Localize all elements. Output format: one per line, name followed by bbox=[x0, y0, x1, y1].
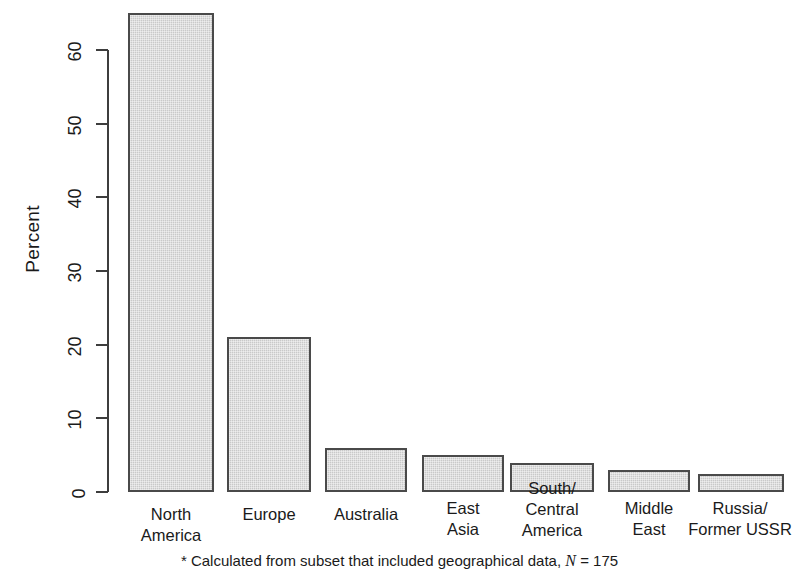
chart-footnote: * Calculated from subset that included g… bbox=[0, 552, 799, 570]
y-tick-label-50: 50 bbox=[65, 109, 86, 143]
bar-east-asia bbox=[422, 455, 504, 492]
bar-chart: Percent 60 50 40 30 20 10 0 North Americ… bbox=[0, 0, 799, 579]
x-label-north-america: North America bbox=[121, 504, 221, 546]
y-tick-label-10: 10 bbox=[65, 403, 86, 437]
y-axis-title: Percent bbox=[22, 189, 44, 289]
bar-australia bbox=[325, 448, 407, 492]
footnote-text: * Calculated from subset that included g… bbox=[181, 552, 565, 569]
x-label-east-asia: East Asia bbox=[413, 498, 513, 540]
y-tick-label-0: 0 bbox=[69, 477, 90, 511]
x-label-europe: Europe bbox=[219, 504, 319, 525]
bar-middle-east bbox=[608, 470, 690, 492]
x-label-russia-former-ussr: Russia/ Former USSR bbox=[681, 498, 799, 540]
bar-russia-former-ussr bbox=[698, 474, 784, 492]
y-tick-label-40: 40 bbox=[65, 182, 86, 216]
y-tick-label-20: 20 bbox=[65, 330, 86, 364]
bar-europe bbox=[227, 337, 311, 492]
y-tick-label-60: 60 bbox=[65, 35, 86, 69]
y-tick-label-30: 30 bbox=[65, 256, 86, 290]
bar-north-america bbox=[128, 13, 214, 492]
y-axis bbox=[0, 0, 799, 579]
x-label-australia: Australia bbox=[316, 504, 416, 525]
footnote-n-value: = 175 bbox=[576, 552, 618, 569]
footnote-n-symbol: N bbox=[565, 552, 576, 569]
x-label-south-central-america: South/ Central America bbox=[502, 478, 602, 541]
